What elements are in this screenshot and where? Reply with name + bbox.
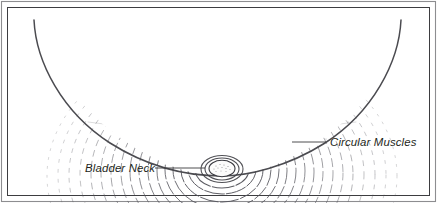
label-circular-muscles: Circular Muscles xyxy=(330,136,417,148)
anatomical-figure: Bladder Neck Circular Muscles xyxy=(0,0,437,203)
neck-lumen xyxy=(209,160,235,176)
label-bladder-neck: Bladder Neck xyxy=(85,162,156,174)
illustration-canvas: Bladder Neck Circular Muscles xyxy=(0,0,437,203)
